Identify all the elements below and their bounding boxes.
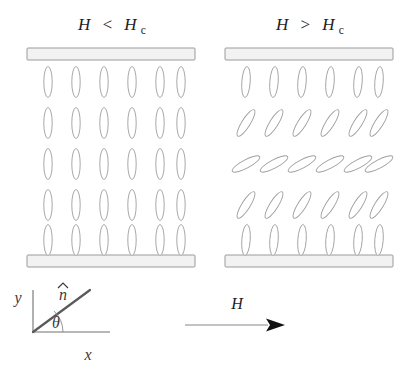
director-rod <box>72 108 80 139</box>
field-label-H: H <box>230 295 244 312</box>
director-rod <box>72 149 80 180</box>
director-rod <box>156 108 164 139</box>
bottom-plate-left <box>27 255 195 267</box>
director-rod <box>177 108 185 139</box>
title-subscript-c: c <box>141 24 146 36</box>
director-rod <box>177 225 185 256</box>
director-rod <box>156 225 164 256</box>
figure-root: H < H c <box>0 0 410 370</box>
director-rod <box>128 225 136 256</box>
panel-title-below-critical: H < H c <box>77 15 146 36</box>
title-relation-symbol: < <box>102 15 113 34</box>
director-rod <box>44 67 52 98</box>
director-rod <box>156 149 164 180</box>
director-rod <box>44 108 52 139</box>
director-rod <box>44 190 52 221</box>
title-critical-symbol: H <box>123 15 138 34</box>
director-rod <box>100 67 108 98</box>
title-critical-symbol: H <box>321 15 336 34</box>
director-rod <box>177 190 185 221</box>
director-rod <box>100 108 108 139</box>
director-rod <box>177 149 185 180</box>
director-rod <box>156 67 164 98</box>
theta-angle-label: θ <box>52 314 60 331</box>
x-axis-label: x <box>83 346 91 363</box>
top-plate-right <box>225 48 393 60</box>
director-rod <box>72 225 80 256</box>
director-rod <box>156 190 164 221</box>
liquid-crystal-diagram: H < H c <box>0 0 410 370</box>
director-rod <box>177 67 185 98</box>
panel-title-above-critical: H > H c <box>275 15 344 36</box>
director-rod <box>128 67 136 98</box>
director-rod <box>100 149 108 180</box>
y-axis-label: y <box>12 289 22 307</box>
director-rod <box>72 190 80 221</box>
director-rod <box>44 225 52 256</box>
director-vector-label: n <box>59 286 67 303</box>
top-plate-left <box>27 48 195 60</box>
director-rod <box>128 108 136 139</box>
director-rod <box>128 190 136 221</box>
director-rod <box>100 190 108 221</box>
title-subscript-c: c <box>339 24 344 36</box>
director-symbol-n: n <box>59 286 67 303</box>
title-field-symbol: H <box>77 15 92 34</box>
bottom-plate-right <box>225 255 393 267</box>
title-relation-symbol: > <box>300 15 311 34</box>
title-field-symbol: H <box>275 15 290 34</box>
director-rod <box>72 67 80 98</box>
director-rod <box>128 149 136 180</box>
director-rod <box>44 149 52 180</box>
director-rod <box>100 225 108 256</box>
